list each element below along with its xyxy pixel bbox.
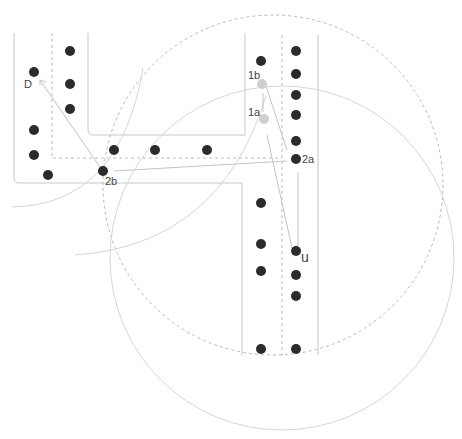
label-2b: 2b [105,175,117,187]
network-diagram: D 1b 1a 2a 2b u [0,0,462,439]
label-2a: 2a [302,153,315,165]
vehicle[interactable] [291,136,301,146]
label-user: u [301,249,309,265]
arrow-2b-to-d [40,80,102,170]
vehicle[interactable] [291,69,301,79]
vehicle[interactable] [291,270,301,280]
vehicle[interactable] [291,46,301,56]
vehicle-d[interactable] [29,67,39,77]
vehicle[interactable] [291,291,301,301]
arrow-1b-to-2a [266,86,287,150]
vehicle[interactable] [150,145,160,155]
range-arcs [12,15,454,430]
vehicle[interactable] [65,46,75,56]
arrow-2a-to-2b [114,161,287,171]
vehicle[interactable] [43,170,53,180]
vehicle[interactable] [291,344,301,354]
vehicle[interactable] [291,90,301,100]
vehicle[interactable] [291,110,301,120]
road-left-outer-edge [14,33,242,355]
dashed-range-circle [103,15,443,355]
vehicle[interactable] [256,344,266,354]
road-edges [14,33,318,355]
label-destination: D [24,78,32,90]
vehicle[interactable] [29,125,39,135]
vehicle[interactable] [65,79,75,89]
road-top-inner-edge [88,33,245,135]
vehicle[interactable] [256,239,266,249]
vehicle[interactable] [256,198,266,208]
vehicle[interactable] [29,150,39,160]
vehicle-u[interactable] [291,246,301,256]
vehicle-2a[interactable] [291,154,301,164]
vehicle[interactable] [256,266,266,276]
lane-dividers [52,33,282,357]
arrow-u-to-1a [267,135,292,248]
vehicle[interactable] [65,104,75,114]
vehicles [29,46,301,354]
vehicle[interactable] [109,145,119,155]
label-1b: 1b [248,69,260,81]
candidate-node-1a[interactable] [259,114,269,124]
vehicle[interactable] [202,145,212,155]
labels: D 1b 1a 2a 2b u [24,69,315,265]
vehicle[interactable] [256,56,266,66]
label-1a: 1a [248,106,261,118]
